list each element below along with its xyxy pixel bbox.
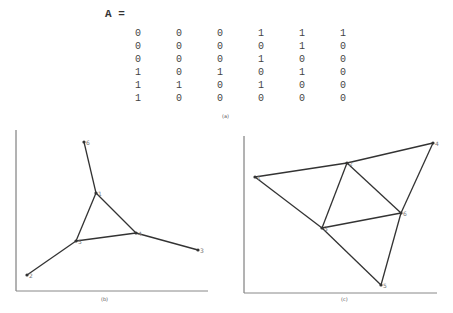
graph-edge — [96, 193, 136, 233]
node-label: 5 — [383, 282, 387, 289]
node-label: 1 — [257, 174, 261, 181]
graph-edge — [322, 163, 347, 228]
graph-edge — [27, 241, 76, 275]
node-label: 4 — [138, 230, 142, 237]
node-label: 3 — [324, 225, 328, 232]
node-label: 5 — [78, 238, 82, 245]
node-label: 2 — [29, 272, 33, 279]
node-label: 6 — [403, 210, 407, 217]
node-label: 6 — [86, 139, 90, 146]
graph-plots: 615432 124365 — [0, 0, 453, 313]
graph-edge — [76, 233, 136, 241]
graph-edge — [136, 233, 198, 250]
graph-edge — [255, 163, 347, 177]
graph-edge — [322, 228, 381, 285]
graph-edge — [322, 213, 401, 228]
graph-edge — [255, 177, 322, 228]
graph-edge — [347, 163, 401, 213]
graph-edge — [84, 142, 96, 193]
node-label: 1 — [98, 190, 102, 197]
node-label: 2 — [349, 160, 353, 167]
graph-b: 615432 — [25, 139, 204, 279]
graph-edge — [381, 213, 401, 285]
graph-edge — [76, 193, 96, 241]
graph-c: 124365 — [253, 140, 439, 289]
node-label: 3 — [200, 247, 204, 254]
caption-b: (b) — [101, 296, 108, 302]
node-label: 4 — [435, 140, 439, 147]
caption-c: (c) — [341, 296, 348, 302]
graph-edge — [401, 143, 433, 213]
graph-edge — [347, 143, 433, 163]
